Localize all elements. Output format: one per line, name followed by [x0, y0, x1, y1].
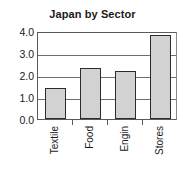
x-tick-label-stores: Stores [155, 126, 165, 155]
x-label-slot: Engin [107, 124, 142, 171]
y-tick-label: 0.0 [1, 114, 34, 126]
x-label-slot: Stores [142, 124, 177, 171]
x-tick-label-textile: Textile [50, 126, 60, 154]
y-tick-label: 4.0 [1, 26, 34, 38]
chart-title: Japan by Sector [0, 8, 185, 20]
y-tick-label: 1.0 [1, 92, 34, 104]
bar-food [80, 68, 102, 119]
y-axis: 0.01.02.03.04.0 [0, 32, 34, 120]
bar-series [38, 33, 176, 119]
y-tick-label: 3.0 [1, 48, 34, 60]
x-label-slot: Textile [37, 124, 72, 171]
y-tick-label: 2.0 [1, 70, 34, 82]
x-tick-label-engin: Engin [120, 126, 130, 152]
bar-chart: Japan by Sector 0.01.02.03.04.0 TextileF… [0, 0, 185, 171]
x-axis-labels: TextileFoodEnginStores [37, 124, 177, 171]
x-tick-label-food: Food [85, 126, 95, 149]
x-label-slot: Food [72, 124, 107, 171]
bar-engin [115, 71, 137, 119]
bar-textile [45, 88, 67, 119]
bar-stores [150, 35, 172, 119]
plot-area [37, 32, 177, 120]
